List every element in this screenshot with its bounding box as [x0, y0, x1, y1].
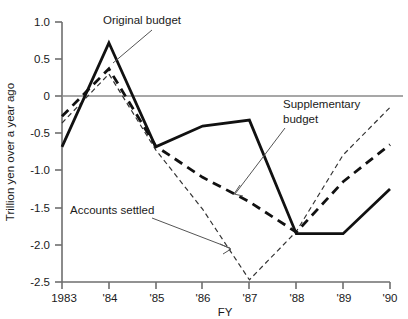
axes [55, 22, 403, 289]
y-tick-label-7: -2.5 [30, 276, 50, 288]
y-tick-label-2: 0 [44, 90, 50, 102]
x-tick-label-3: '86 [196, 292, 211, 304]
y-tick-label-0: 1.0 [34, 16, 50, 28]
x-tick-label-7: '90 [383, 292, 398, 304]
chart-figure: 1.0 0.5 0 -0.5 -1.0 -1.5 -2.0 -2.5 1983 … [0, 0, 408, 319]
x-tick-label-1: '84 [103, 292, 119, 304]
x-tick-labels: 1983 '84 '85 '86 '87 '88 '89 '90 [51, 292, 397, 304]
x-tick-label-6: '89 [337, 292, 352, 304]
y-axis-title: Trillion yen over a year ago [4, 83, 16, 221]
x-axis-title: FY [218, 306, 233, 318]
annotation-accounts-settled-leader [152, 218, 230, 248]
y-tick-label-5: -1.5 [30, 202, 50, 214]
x-tick-label-4: '87 [243, 292, 258, 304]
annotation-accounts-settled-label: Accounts settled [70, 204, 154, 216]
x-tick-label-2: '85 [150, 292, 165, 304]
line-chart-canvas: 1.0 0.5 0 -0.5 -1.0 -1.5 -2.0 -2.5 1983 … [0, 0, 408, 319]
y-tick-label-4: -1.0 [30, 164, 50, 176]
annotation-original-budget-leader [113, 30, 152, 63]
annotation-original-budget-label: Original budget [103, 14, 182, 26]
y-tick-label-6: -2.0 [30, 239, 50, 251]
annotation-supplementary-budget-label-line2: budget [283, 113, 319, 125]
x-tick-label-5: '88 [290, 292, 305, 304]
annotation-supplementary-budget-label-line1: Supplementary [283, 98, 361, 110]
annotation-supplementary-budget-leader [235, 128, 285, 194]
annotation-supplementary-budget-arrowhead [234, 185, 243, 196]
y-tick-label-3: -0.5 [30, 127, 50, 139]
y-tick-labels: 1.0 0.5 0 -0.5 -1.0 -1.5 -2.0 -2.5 [30, 16, 50, 288]
y-tick-label-1: 0.5 [34, 53, 50, 65]
x-tick-label-0: 1983 [51, 292, 77, 304]
